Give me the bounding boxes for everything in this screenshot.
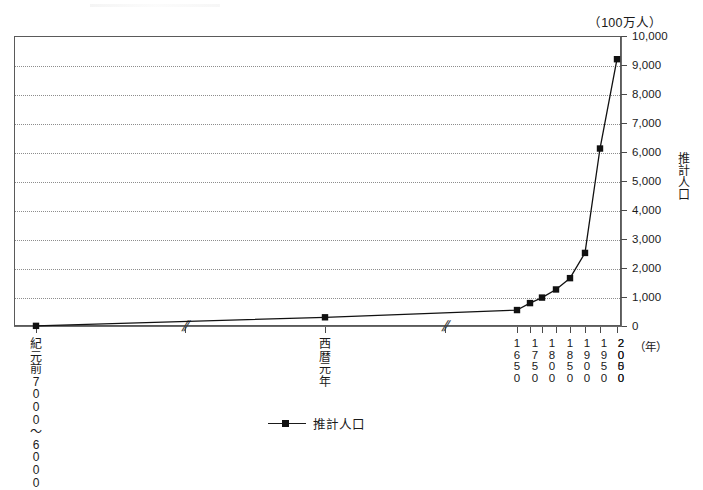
legend-marker-icon: [268, 419, 306, 429]
data-point-marker: [527, 300, 533, 306]
series-markers-estimated-population: [33, 56, 620, 329]
data-point-marker: [582, 250, 588, 256]
label-char: 0: [30, 477, 43, 490]
data-point-marker: [553, 286, 559, 292]
data-point-marker: [33, 323, 39, 329]
legend-label: 推計人口: [313, 414, 365, 433]
data-point-marker: [597, 145, 603, 151]
data-point-marker: [567, 275, 573, 281]
data-point-marker: [514, 307, 520, 313]
data-point-marker: [539, 294, 545, 300]
series-line-estimated-population: [36, 59, 617, 326]
data-point-marker: [322, 314, 328, 320]
chart-legend: 推計人口: [268, 414, 365, 433]
data-point-marker: [614, 56, 620, 62]
